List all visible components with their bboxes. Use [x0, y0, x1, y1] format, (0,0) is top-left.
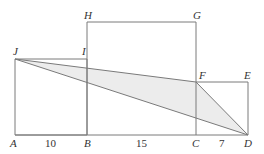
length-bc: 15 [136, 137, 148, 149]
geometry-diagram: J I H G F E A B C D 10 15 7 [0, 0, 264, 154]
label-d: D [243, 137, 252, 149]
label-c: C [192, 137, 200, 149]
length-ab: 10 [45, 137, 57, 149]
label-f: F [198, 69, 206, 81]
label-i: I [81, 45, 87, 57]
label-b: B [84, 137, 91, 149]
length-cd: 7 [219, 137, 225, 149]
label-e: E [243, 69, 251, 81]
label-a: A [9, 137, 17, 149]
label-g: G [193, 9, 201, 21]
label-h: H [83, 9, 93, 21]
label-j: J [13, 45, 19, 57]
segment-jd [15, 59, 248, 135]
